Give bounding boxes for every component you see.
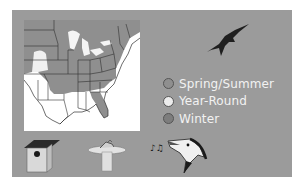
legend-label: Year-Round	[179, 94, 247, 108]
spring-summer-swatch-icon	[163, 78, 174, 89]
singing-bird-head-icon: ♪♫	[150, 133, 212, 173]
legend-label: Spring/Summer	[179, 77, 274, 91]
svg-text:♪♫: ♪♫	[150, 143, 164, 153]
legend: Spring/Summer Year-Round Winter	[163, 75, 274, 128]
birdhouse-icon	[24, 138, 60, 174]
us-map-graphic	[24, 20, 140, 131]
flying-bird-silhouette-icon	[205, 24, 251, 58]
year-round-swatch-icon	[163, 96, 174, 107]
legend-item-winter: Winter	[163, 110, 274, 128]
legend-label: Winter	[179, 112, 219, 126]
legend-item-year-round: Year-Round	[163, 93, 274, 111]
birdbath-icon	[86, 138, 128, 174]
legend-item-spring-summer: Spring/Summer	[163, 75, 274, 93]
winter-swatch-icon	[163, 113, 174, 124]
range-map	[24, 20, 140, 131]
